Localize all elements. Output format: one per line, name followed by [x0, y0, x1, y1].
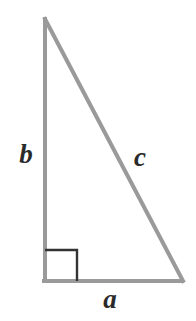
label-side-a: a	[98, 286, 122, 313]
right-triangle-figure: b c a	[0, 0, 196, 321]
triangle-hypotenuse-c-line	[45, 19, 183, 281]
label-side-c: c	[128, 144, 152, 171]
label-side-b: b	[14, 141, 38, 168]
right-angle-marker-icon	[45, 250, 77, 281]
